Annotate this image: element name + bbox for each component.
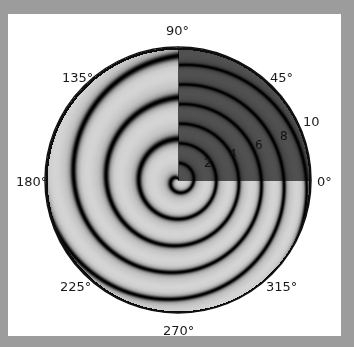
angle-label-45: 45° [270, 71, 293, 84]
radial-label-6: 6 [255, 139, 263, 151]
angle-label-135: 135° [62, 71, 93, 84]
angle-label-270: 270° [163, 324, 194, 337]
angle-label-180: 180° [16, 175, 47, 188]
polar-plot [0, 0, 354, 347]
radial-label-2: 2 [204, 157, 212, 169]
radial-label-4: 4 [229, 148, 237, 160]
radial-label-8: 8 [280, 130, 288, 142]
radial-label-10: 10 [303, 115, 320, 128]
angle-label-225: 225° [60, 280, 91, 293]
angle-label-315: 315° [266, 280, 297, 293]
angle-label-90: 90° [166, 24, 189, 37]
angle-label-0: 0° [317, 175, 332, 188]
